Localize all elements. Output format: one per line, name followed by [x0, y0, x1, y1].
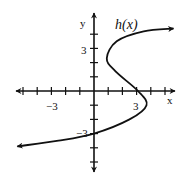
y-tick-label-3: 3 [81, 44, 87, 56]
y-tick-label-neg3: −3 [76, 127, 88, 139]
x-tick-label-neg3: −3 [46, 100, 58, 112]
curve-label: h(x) [115, 17, 138, 33]
curve-h-of-x [17, 29, 173, 147]
x-tick-label-3: 3 [133, 100, 139, 112]
x-axis-label: x [167, 94, 173, 106]
y-axis-label: y [80, 17, 86, 29]
graph: y x h(x) −3 3 3 −3 [0, 0, 188, 174]
